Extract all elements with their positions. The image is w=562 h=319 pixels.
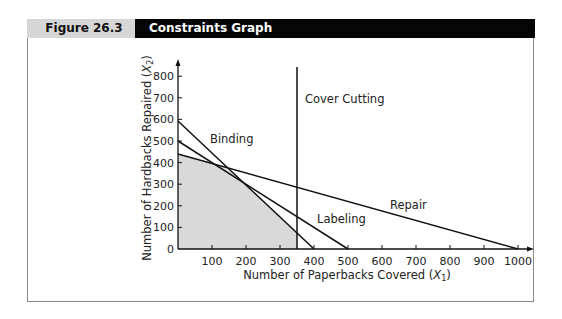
- x-tick-label: 200: [236, 255, 257, 268]
- x-tick-label: 900: [474, 255, 495, 268]
- x-axis-arrow-icon: [527, 247, 534, 252]
- x-tick-label: 700: [406, 255, 427, 268]
- binding-label: Binding: [210, 132, 253, 146]
- x-tick-label: 1000: [504, 255, 532, 268]
- x-tick-label: 300: [270, 255, 291, 268]
- y-tick-label: 0: [167, 243, 174, 256]
- y-axis-title: Number of Hardbacks Repaired (X2): [140, 55, 155, 261]
- y-tick-label: 300: [153, 178, 174, 191]
- y-tick-label: 400: [153, 157, 174, 170]
- x-tick-label: 800: [440, 255, 461, 268]
- x-axis-title: Number of Paperbacks Covered (X1): [243, 268, 451, 283]
- labeling-label: Labeling: [317, 212, 366, 226]
- y-tick-label: 600: [153, 113, 174, 126]
- repair-label: Repair: [390, 198, 427, 212]
- feasible-region: [178, 154, 297, 249]
- x-tick-label: 400: [304, 255, 325, 268]
- x-tick-label: 100: [202, 255, 223, 268]
- constraints-chart: 0 100 200 300 400 500 600 700 800 100 20…: [0, 0, 562, 319]
- y-tick-label: 500: [153, 135, 174, 148]
- cover-cutting-label: Cover Cutting: [305, 92, 384, 106]
- y-tick-label: 700: [153, 92, 174, 105]
- y-axis-arrow-icon: [176, 59, 181, 66]
- x-tick-label: 500: [338, 255, 359, 268]
- x-tick-label: 600: [372, 255, 393, 268]
- x-tick-labels: 100 200 300 400 500 600 700 800 900 1000: [202, 255, 533, 268]
- y-tick-label: 800: [153, 70, 174, 83]
- y-tick-label: 100: [153, 221, 174, 234]
- y-tick-labels: 0 100 200 300 400 500 600 700 800: [153, 70, 174, 256]
- y-tick-label: 200: [153, 200, 174, 213]
